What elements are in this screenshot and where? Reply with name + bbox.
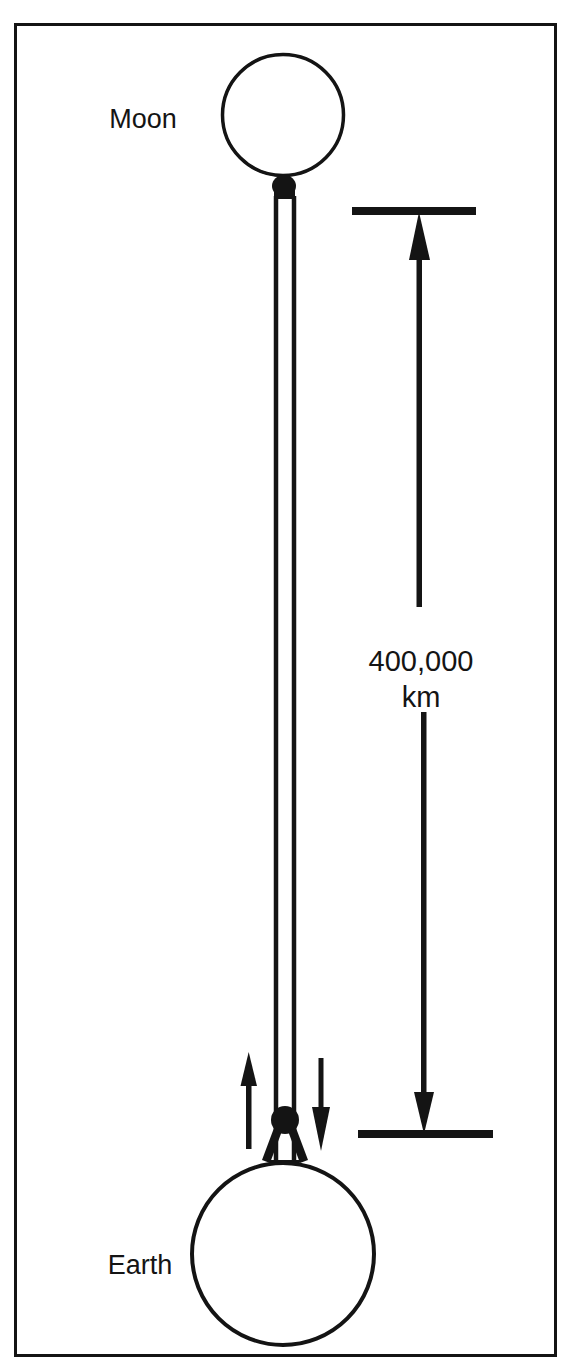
distance-bottom-tick (358, 1130, 493, 1138)
moon-label: Moon (109, 104, 177, 134)
distance-value-label: 400,000 (369, 645, 474, 677)
diagram-canvas: Moon Earth (0, 0, 570, 1368)
earth-moon-distance-diagram: Moon Earth (0, 0, 570, 1368)
distance-upper-shaft (417, 255, 423, 607)
earth-label: Earth (108, 1250, 173, 1280)
distance-top-tick (352, 207, 476, 215)
distance-lower-shaft (421, 712, 427, 1102)
earth-body (192, 1163, 374, 1345)
up-arrow-shaft (246, 1083, 252, 1149)
distance-unit-label: km (402, 681, 441, 713)
down-arrow-shaft (319, 1058, 324, 1110)
